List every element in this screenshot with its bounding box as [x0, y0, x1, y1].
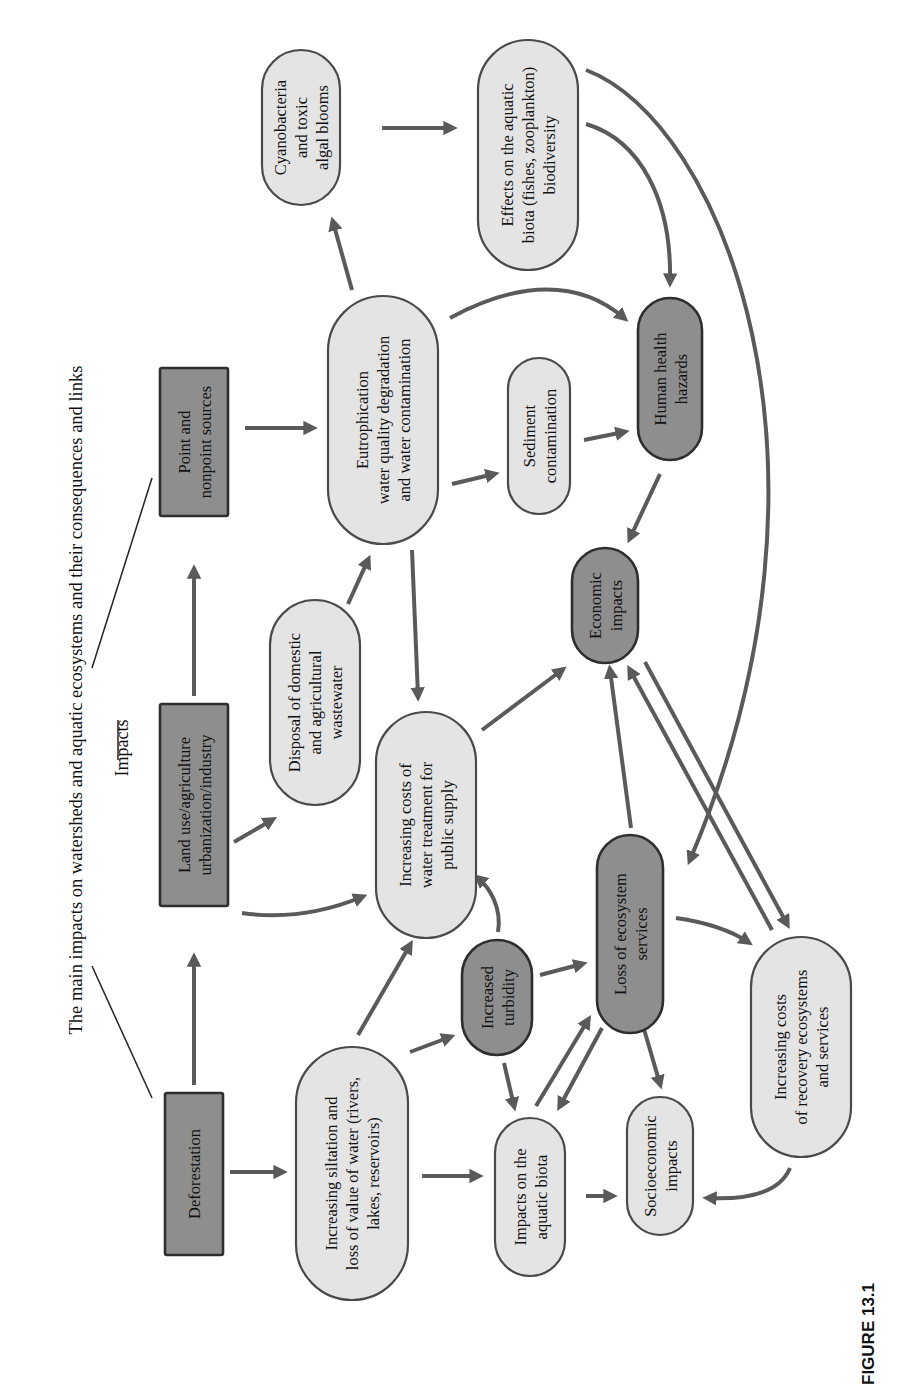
node-box — [597, 835, 663, 1033]
node-label: Increasing costs ofwater treatment forpu… — [396, 761, 457, 888]
node-human_health: Human healthhazards — [638, 298, 702, 460]
impacts-label: Impacts — [112, 720, 132, 777]
node-impacts_biota: Impacts on theaquatic biota — [495, 1118, 565, 1276]
node-eutrophication: Eutrophicationwater quality degradationa… — [328, 296, 438, 544]
node-loss_ecosystem: Loss of ecosystemservices — [597, 835, 663, 1033]
arrow-economic-to-recovery_costs — [645, 662, 787, 924]
impacts-connector-lines — [92, 478, 152, 1098]
node-label: Deforestation — [185, 1129, 204, 1219]
node-disposal: Disposal of domesticand agriculturalwast… — [270, 600, 360, 805]
arrow-eutrophication-to-cyanobacteria — [333, 222, 352, 290]
node-turbidity: Increasedturbidity — [462, 940, 532, 1055]
arrow-turbidity-to-impacts_biota — [504, 1063, 514, 1106]
arrow-water_treatment-to-economic — [482, 670, 562, 730]
arrow-siltation-to-water_treatment — [358, 945, 410, 1035]
node-deforestation: Deforestation — [165, 1093, 223, 1255]
arrow-disposal-to-eutrophication — [348, 560, 368, 604]
node-box — [638, 298, 702, 460]
arrow-effects_biota-to-human_health — [586, 124, 670, 282]
node-box — [627, 1097, 693, 1235]
node-land_use: Land use/agricultureurbanization/industr… — [160, 704, 228, 906]
arrow-land_use-to-disposal — [234, 820, 272, 842]
arrow-human_health-to-economic — [630, 474, 660, 538]
node-effects_biota: Effects on the aquaticbiota (fishes, zoo… — [478, 40, 578, 270]
node-box — [495, 1118, 565, 1276]
arrow-eutrophication-to-human_health — [450, 290, 624, 319]
arrow-turbidity-to-loss_ecosystem — [540, 964, 582, 975]
arrow-loss_ecosystem-to-impacts_biota — [560, 1028, 602, 1106]
node-water_treatment: Increasing costs ofwater treatment forpu… — [376, 712, 476, 938]
arrow-recovery_costs-to-socioeconomic — [708, 1168, 790, 1198]
node-point_sources: Point andnonpoint sources — [160, 368, 228, 516]
arrow-sediment-to-human_health — [584, 432, 624, 440]
node-cyanobacteria: Cyanobacteriaand toxicalgal blooms — [262, 50, 340, 205]
impact-diagram: The main impacts on watersheds and aquat… — [0, 0, 898, 1385]
arrow-land_use-to-water_treatment — [242, 897, 362, 915]
connector-line — [92, 966, 152, 1098]
figure-caption: FIGURE 13.1 — [859, 1283, 878, 1385]
node-socioeconomic: Socioeconomicimpacts — [627, 1097, 693, 1235]
node-box — [572, 548, 638, 663]
node-economic: Economicimpacts — [572, 548, 638, 663]
arrow-impacts_biota-to-loss_ecosystem — [536, 1020, 588, 1106]
node-box — [160, 704, 228, 906]
arrow-loss_ecosystem-to-economic — [610, 670, 631, 828]
arrow-turbidity-to-water_treatment — [478, 878, 499, 932]
diagram-title: The main impacts on watersheds and aquat… — [66, 366, 86, 1035]
arrow-effects_biota-to-loss_ecosystem — [586, 70, 768, 860]
nodes: Point andnonpoint sourcesLand use/agricu… — [160, 40, 851, 1300]
node-recovery_costs: Increasing costsof recovery ecosystemsan… — [751, 937, 851, 1157]
arrow-eutrophication-to-sediment — [452, 474, 494, 484]
node-sediment: Sedimentcontamination — [508, 358, 570, 514]
node-box — [508, 358, 570, 514]
node-siltation: Increasing siltation andloss of value of… — [296, 1047, 408, 1300]
arrow-siltation-to-turbidity — [410, 1037, 450, 1052]
arrow-loss_ecosystem-to-recovery_costs — [676, 918, 748, 942]
connector-line — [92, 478, 152, 668]
node-box — [462, 940, 532, 1055]
node-box — [160, 368, 228, 516]
arrow-eutrophication-to-water_treatment — [412, 550, 418, 696]
